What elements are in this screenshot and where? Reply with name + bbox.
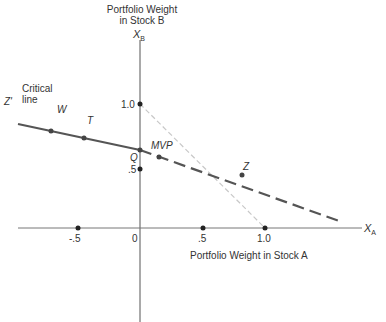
label-q: Q [130, 152, 138, 163]
critical-line-label: Critical line [22, 83, 53, 105]
x-tick-05 [201, 226, 206, 231]
critical-line-dashed [140, 150, 342, 222]
x-tick-neg05 [76, 226, 81, 231]
x-axis-title: Portfolio Weight in Stock A [190, 250, 308, 261]
critical-line-label-line1: Critical [22, 83, 53, 94]
x-tick-label-1: 1.0 [257, 233, 271, 244]
label-w: W [57, 104, 66, 115]
x-tick-label-0: 0 [132, 233, 138, 244]
x-axis-symbol: XA [364, 222, 376, 237]
x-tick-label-05: .5 [198, 233, 206, 244]
y-axis-symbol-sub: B [140, 35, 145, 42]
y-tick-05 [138, 167, 143, 172]
point-q [138, 148, 143, 153]
label-mvp: MVP [151, 140, 173, 151]
point-z [240, 173, 245, 178]
diagram-canvas [0, 0, 386, 322]
y-axis-title-line2: in Stock B [102, 15, 182, 26]
critical-line-solid [18, 124, 140, 150]
y-tick-label-05: .5 [128, 164, 136, 175]
y-axis-title: Portfolio Weight in Stock B [102, 4, 182, 26]
label-t: T [87, 115, 93, 126]
x-axis-symbol-sub: A [371, 229, 376, 236]
label-z: Z [243, 161, 249, 172]
y-tick-label-1: 1.0 [121, 99, 135, 110]
y-axis-title-line1: Portfolio Weight [102, 4, 182, 15]
y-tick-1 [138, 102, 143, 107]
point-mvp [157, 155, 162, 160]
point-t [82, 136, 87, 141]
x-tick-label-neg05: -.5 [69, 233, 81, 244]
point-w [49, 129, 54, 134]
y-axis-symbol: XB [133, 28, 145, 43]
label-z-prime: Z' [4, 96, 12, 107]
x-tick-1 [263, 226, 268, 231]
critical-line-label-line2: line [22, 94, 53, 105]
